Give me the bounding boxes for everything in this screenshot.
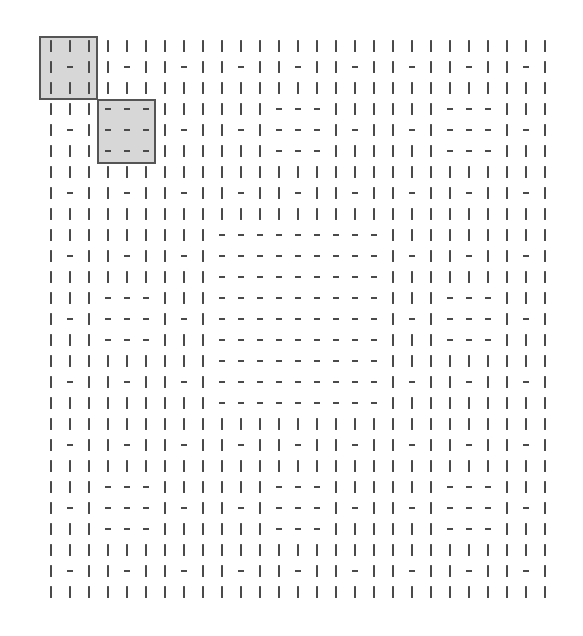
grid-cell [460, 540, 479, 561]
vertical-bar-icon [449, 40, 451, 52]
grid-cell [460, 498, 479, 519]
grid-cell [99, 141, 118, 162]
grid-cell [308, 288, 327, 309]
grid-cell [251, 456, 270, 477]
vertical-bar-icon [145, 61, 147, 73]
grid-cell [536, 330, 555, 351]
grid-cell [42, 372, 61, 393]
grid-cell [213, 582, 232, 603]
vertical-bar-icon [164, 208, 166, 220]
grid-cell [80, 414, 99, 435]
vertical-bar-icon [430, 460, 432, 472]
vertical-bar-icon [126, 355, 128, 367]
vertical-bar-icon [259, 187, 261, 199]
grid-cell [441, 141, 460, 162]
horizontal-dash-icon [124, 570, 130, 572]
grid-cell [498, 351, 517, 372]
vertical-bar-icon [278, 439, 280, 451]
grid-cell [365, 36, 384, 57]
horizontal-dash-icon [409, 318, 415, 320]
horizontal-dash-icon [105, 297, 111, 299]
grid-cell [99, 78, 118, 99]
grid-cell [156, 540, 175, 561]
vertical-bar-icon [487, 271, 489, 283]
grid-cell [441, 351, 460, 372]
grid-cell [156, 330, 175, 351]
horizontal-dash-icon [219, 360, 225, 362]
grid-cell [422, 372, 441, 393]
vertical-bar-icon [392, 460, 394, 472]
grid-cell [346, 456, 365, 477]
vertical-bar-icon [430, 208, 432, 220]
vertical-bar-icon [392, 334, 394, 346]
vertical-bar-icon [468, 82, 470, 94]
vertical-bar-icon [430, 418, 432, 430]
grid-cell [517, 57, 536, 78]
grid-cell [42, 519, 61, 540]
vertical-bar-icon [354, 544, 356, 556]
vertical-bar-icon [430, 502, 432, 514]
horizontal-dash-icon [124, 528, 130, 530]
horizontal-dash-icon [314, 234, 320, 236]
grid-cell [441, 435, 460, 456]
grid-cell [80, 78, 99, 99]
grid-cell [61, 78, 80, 99]
horizontal-dash-icon [314, 381, 320, 383]
vertical-bar-icon [145, 397, 147, 409]
grid-cell [289, 246, 308, 267]
vertical-bar-icon [278, 61, 280, 73]
grid-cell [251, 267, 270, 288]
horizontal-dash-icon [447, 339, 453, 341]
horizontal-dash-icon [466, 150, 472, 152]
grid-cell [213, 351, 232, 372]
vertical-bar-icon [240, 145, 242, 157]
vertical-bar-icon [221, 82, 223, 94]
vertical-bar-icon [88, 292, 90, 304]
horizontal-dash-icon [352, 402, 358, 404]
horizontal-dash-icon [314, 486, 320, 488]
grid-cell [118, 183, 137, 204]
vertical-bar-icon [164, 334, 166, 346]
horizontal-dash-icon [447, 150, 453, 152]
horizontal-dash-icon [143, 297, 149, 299]
grid-cell [232, 330, 251, 351]
grid-cell [118, 393, 137, 414]
vertical-bar-icon [88, 145, 90, 157]
vertical-bar-icon [50, 166, 52, 178]
vertical-bar-icon [183, 229, 185, 241]
vertical-bar-icon [50, 124, 52, 136]
vertical-bar-icon [430, 103, 432, 115]
vertical-bar-icon [506, 82, 508, 94]
grid-cell [99, 183, 118, 204]
grid-cell [327, 561, 346, 582]
horizontal-dash-icon [276, 507, 282, 509]
grid-cell [42, 57, 61, 78]
vertical-bar-icon [316, 187, 318, 199]
vertical-bar-icon [506, 124, 508, 136]
vertical-bar-icon [50, 523, 52, 535]
grid-cell [175, 57, 194, 78]
vertical-bar-icon [335, 208, 337, 220]
grid-cell [251, 519, 270, 540]
grid-cell [156, 561, 175, 582]
grid-cell [346, 540, 365, 561]
vertical-bar-icon [183, 418, 185, 430]
grid-cell [422, 36, 441, 57]
horizontal-dash-icon [352, 234, 358, 236]
horizontal-dash-icon [238, 339, 244, 341]
grid-cell [517, 183, 536, 204]
grid-cell [327, 372, 346, 393]
grid-cell [327, 36, 346, 57]
grid-cell [498, 477, 517, 498]
horizontal-dash-icon [238, 360, 244, 362]
vertical-bar-icon [506, 523, 508, 535]
horizontal-dash-icon [276, 234, 282, 236]
grid-cell [175, 330, 194, 351]
horizontal-dash-icon [238, 234, 244, 236]
grid-cell [365, 57, 384, 78]
grid-cell [536, 372, 555, 393]
horizontal-dash-icon [314, 255, 320, 257]
grid-cell [517, 288, 536, 309]
horizontal-dash-icon [314, 507, 320, 509]
grid-cell [194, 99, 213, 120]
